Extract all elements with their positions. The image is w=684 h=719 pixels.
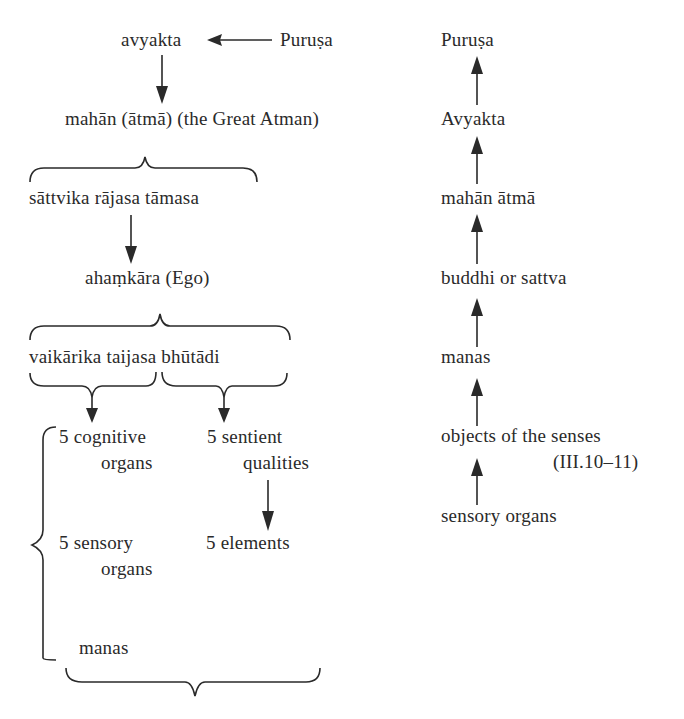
- right-node-objects-of-senses: objects of the senses: [441, 425, 601, 447]
- node-manas-left: manas: [79, 637, 129, 659]
- node-cognitive-organs-line1: 5 cognitive: [59, 426, 146, 448]
- brace-ahamkara: [30, 314, 290, 340]
- right-node-purusa: Puruṣa: [441, 29, 494, 51]
- node-mahan: mahān (ātmā) (the Great Atman): [65, 108, 319, 130]
- node-gunas: sāttvika rājasa tāmasa: [29, 187, 199, 209]
- node-cognitive-organs-line2: organs: [101, 452, 153, 474]
- node-sensory-organs-line2: organs: [101, 558, 153, 580]
- node-purusa: Puruṣa: [280, 29, 333, 51]
- right-node-manas: manas: [441, 346, 491, 368]
- right-node-sensory-organs: sensory organs: [441, 505, 557, 527]
- node-ego-types: vaikārika taijasa bhūtādi: [29, 346, 220, 368]
- node-ahamkara: ahaṃkāra (Ego): [85, 267, 210, 289]
- node-avyakta: avyakta: [121, 29, 181, 51]
- brace-bottom: [66, 668, 320, 696]
- right-node-avyakta: Avyakta: [441, 108, 505, 130]
- right-node-reference: (III.10–11): [553, 451, 638, 473]
- brace-vaikarika: [30, 372, 156, 397]
- brace-bhutadi: [162, 372, 287, 397]
- node-sentient-qualities-line2: qualities: [243, 452, 309, 474]
- node-sensory-organs-line1: 5 sensory: [59, 532, 133, 554]
- right-node-mahan-atma: mahān ātmā: [441, 187, 535, 209]
- node-elements: 5 elements: [206, 532, 290, 554]
- right-node-buddhi: buddhi or sattva: [441, 267, 567, 289]
- brace-mahan: [30, 157, 257, 182]
- node-sentient-qualities-line1: 5 sentient: [207, 426, 282, 448]
- brace-left-organs: [32, 427, 56, 660]
